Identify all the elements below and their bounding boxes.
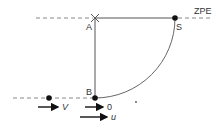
label-zpe: ZPE	[194, 6, 212, 16]
incoming-object	[46, 95, 52, 101]
label-zero: 0	[107, 102, 112, 112]
stray-dot	[135, 101, 137, 103]
bob-at-s	[172, 15, 178, 21]
label-s: S	[176, 22, 182, 32]
swing-arc	[95, 18, 175, 98]
label-a: A	[86, 22, 92, 32]
label-v: V	[62, 102, 69, 112]
label-b: B	[86, 87, 92, 97]
pendulum-energy-diagram: A S ZPE B V 0 u	[0, 0, 219, 131]
bob-at-b	[92, 95, 98, 101]
label-u: u	[111, 112, 116, 122]
